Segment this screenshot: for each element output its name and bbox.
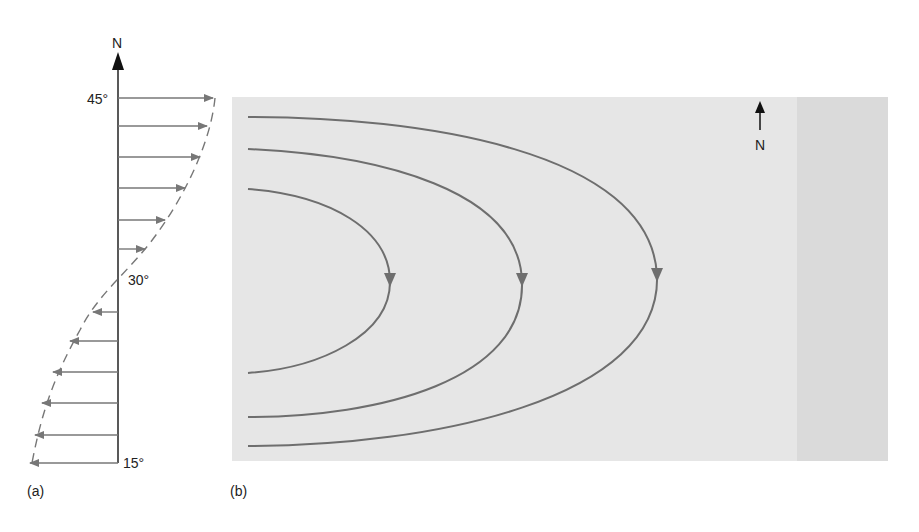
ocean-basin bbox=[232, 97, 888, 461]
latitude-30-label: 30° bbox=[128, 273, 149, 287]
north-label-b: N bbox=[755, 138, 765, 152]
north-label-a: N bbox=[112, 36, 122, 50]
panel-a-label: (a) bbox=[27, 484, 44, 498]
latitude-15-label: 15° bbox=[123, 456, 144, 470]
coastal-strip bbox=[797, 97, 888, 461]
easterly-arrows bbox=[30, 312, 118, 463]
panel-b-label: (b) bbox=[230, 484, 247, 498]
latitude-45-label: 45° bbox=[87, 92, 108, 106]
figure-canvas bbox=[0, 0, 919, 532]
panel-a-wind-profile bbox=[30, 52, 215, 463]
westerly-arrows bbox=[118, 98, 213, 249]
wind-profile-dashed-curve bbox=[32, 98, 215, 463]
north-arrow-icon bbox=[112, 52, 124, 70]
panel-b-gyre bbox=[232, 97, 888, 461]
